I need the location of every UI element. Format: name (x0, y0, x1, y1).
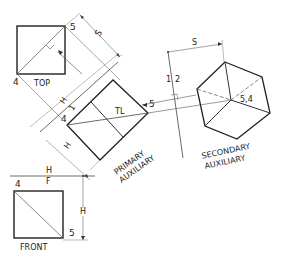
secondary-s-dimension-label: S (192, 39, 197, 47)
true-length-line (67, 113, 148, 125)
secondary-point-54-label: 5,4 (240, 96, 253, 104)
extension-line (90, 160, 100, 170)
front-view-label: FRONT (20, 244, 47, 252)
projector-line (65, 26, 120, 80)
fold-hf-f-label: F (46, 178, 51, 186)
true-length-label: TL (115, 108, 124, 116)
arrow-head-icon (142, 103, 147, 107)
front-point-5-label: 5 (69, 229, 75, 238)
fold-line-12 (168, 52, 183, 158)
arrow-head-icon (218, 42, 222, 46)
primary-point-4-label: 4 (61, 115, 67, 124)
hidden-edge (197, 89, 231, 100)
front-view-diagonal (14, 191, 63, 238)
projector-line (58, 52, 82, 74)
top-view-label: TOP (34, 80, 50, 88)
extension-line (222, 40, 224, 62)
auxiliary-view-diagram (0, 0, 281, 259)
fold-12-1-label: 1 (166, 76, 171, 84)
fold-12-2-label: 2 (175, 76, 180, 84)
fold-line-h1-parallel (30, 54, 118, 127)
dimension-dot (167, 51, 169, 53)
top-point-5-label: 5 (70, 23, 76, 32)
primary-point-5-label: 5 (149, 100, 155, 109)
top-view-diagonal (17, 26, 65, 74)
top-point-4-label: 4 (13, 78, 19, 87)
front-h-dimension-label: H (80, 208, 86, 216)
right-angle-mark (46, 45, 54, 49)
cube-edge (205, 100, 231, 126)
front-view (14, 176, 88, 240)
arrow-head-icon (81, 236, 85, 240)
fold-line-h1 (40, 62, 118, 132)
front-point-4-label: 4 (15, 180, 21, 189)
fold-hf-h-label: H (46, 167, 52, 175)
cube-edge (225, 62, 231, 100)
secondary-auxiliary-view (197, 62, 270, 139)
